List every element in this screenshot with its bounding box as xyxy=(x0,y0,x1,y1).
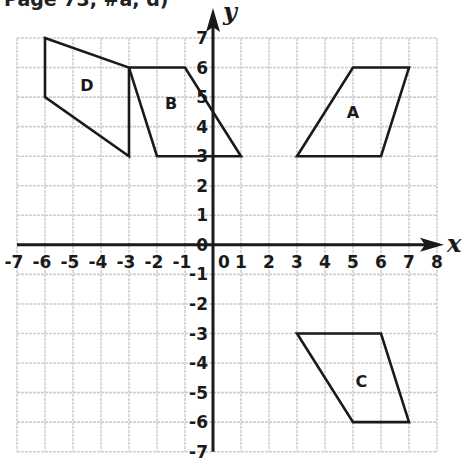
y-tick-label: 2 xyxy=(196,176,208,196)
x-tick-label: -2 xyxy=(145,252,164,272)
y-tick-label: 6 xyxy=(196,58,208,78)
y-tick-label: -5 xyxy=(189,383,208,403)
y-tick-label: 7 xyxy=(196,28,208,48)
shape-label: C xyxy=(356,372,368,391)
shape-label: D xyxy=(80,76,93,95)
y-tick-label: -2 xyxy=(189,294,208,314)
x-tick-label: -7 xyxy=(5,252,24,272)
x-tick-label: -3 xyxy=(117,252,136,272)
x-tick-label: 1 xyxy=(235,252,247,272)
y-tick-label: -7 xyxy=(189,442,208,462)
x-tick-label: -6 xyxy=(33,252,52,272)
y-tick-label: 4 xyxy=(196,117,208,137)
x-tick-label: 6 xyxy=(375,252,387,272)
shape-label: A xyxy=(347,103,360,122)
coordinate-plane: xy -7-6-5-4-3-2-101234567876543210-1-2-3… xyxy=(0,0,470,467)
y-axis-label: y xyxy=(222,0,239,26)
y-tick-label: -1 xyxy=(189,264,208,284)
x-tick-label: 2 xyxy=(263,252,275,272)
shapes: ABCD xyxy=(45,38,409,422)
x-tick-label: 4 xyxy=(319,252,331,272)
x-tick-label: 3 xyxy=(291,252,303,272)
x-tick-label: 5 xyxy=(347,252,359,272)
shape-label: B xyxy=(165,94,177,113)
y-tick-label: -6 xyxy=(189,412,208,432)
x-tick-label: 7 xyxy=(403,252,415,272)
x-tick-label: -5 xyxy=(61,252,80,272)
y-tick-label: 1 xyxy=(196,205,208,225)
x-tick-label: 8 xyxy=(431,252,443,272)
x-axis-label: x xyxy=(446,229,462,258)
x-tick-label: 0 xyxy=(218,252,230,272)
x-tick-label: -4 xyxy=(89,252,108,272)
y-tick-label: -3 xyxy=(189,324,208,344)
y-tick-label: 0 xyxy=(196,235,208,255)
y-tick-label: -4 xyxy=(189,353,208,373)
